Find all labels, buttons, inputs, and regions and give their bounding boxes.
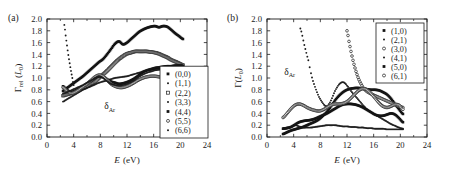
series-(4,1) bbox=[282, 124, 404, 130]
legend-label: (5,0) bbox=[391, 63, 407, 72]
legend-label: (6,1) bbox=[391, 72, 407, 81]
data-marker bbox=[334, 90, 336, 92]
y-tick-label: 1.8 bbox=[251, 26, 262, 36]
data-marker bbox=[402, 108, 405, 111]
series-(1,0) bbox=[282, 87, 405, 136]
y-tick-label: 1.0 bbox=[31, 73, 42, 83]
x-tick-label: 24 bbox=[203, 140, 212, 150]
data-marker bbox=[65, 35, 67, 37]
data-marker bbox=[63, 24, 65, 26]
legend-label: (0,0) bbox=[175, 70, 191, 79]
y-tick-label: 2.0 bbox=[31, 14, 42, 24]
y-tick-label: 0.8 bbox=[31, 85, 42, 95]
data-marker bbox=[69, 66, 71, 68]
data-marker bbox=[299, 27, 301, 29]
data-marker bbox=[300, 30, 302, 32]
legend-marker bbox=[383, 39, 385, 41]
legend-marker bbox=[383, 29, 386, 32]
data-marker bbox=[313, 83, 315, 85]
legend-marker bbox=[167, 129, 169, 131]
data-marker bbox=[306, 56, 308, 58]
legend-label: (3,3) bbox=[175, 98, 191, 107]
data-marker bbox=[312, 80, 314, 82]
x-tick-label: 0 bbox=[45, 140, 49, 150]
legend-label: (3,0) bbox=[391, 45, 407, 54]
legend-label: (2,2) bbox=[175, 89, 191, 98]
data-marker bbox=[67, 49, 69, 51]
data-marker bbox=[402, 113, 405, 116]
x-tick-label: 24 bbox=[423, 140, 432, 150]
x-tick-label: 16 bbox=[369, 140, 378, 150]
legend-marker bbox=[167, 119, 170, 122]
y-tick-label: 0.4 bbox=[251, 109, 262, 119]
y-tick-label: 0.8 bbox=[251, 85, 262, 95]
data-marker bbox=[354, 67, 357, 70]
data-marker bbox=[66, 45, 68, 47]
legend-label: (1,1) bbox=[175, 79, 191, 88]
data-marker bbox=[402, 128, 404, 130]
y-tick-label: 0.4 bbox=[31, 109, 42, 119]
legend-marker bbox=[383, 47, 386, 50]
legend-marker bbox=[167, 82, 169, 84]
y-axis-title: Γrel (L0) bbox=[13, 64, 24, 92]
data-marker bbox=[317, 94, 319, 96]
data-marker bbox=[72, 81, 74, 83]
data-marker bbox=[65, 40, 67, 42]
delta-ar-annotation: δAr bbox=[104, 101, 115, 112]
data-marker bbox=[69, 62, 71, 64]
y-tick-label: 0.2 bbox=[31, 120, 42, 130]
legend-label: (2,1) bbox=[391, 36, 407, 45]
data-marker bbox=[67, 54, 69, 56]
data-marker bbox=[330, 99, 332, 101]
x-tick-label: 12 bbox=[343, 140, 352, 150]
legend-label: (6,6) bbox=[175, 126, 191, 135]
data-marker bbox=[347, 34, 350, 37]
x-tick-label: 16 bbox=[149, 140, 158, 150]
panel-b-plot: 048121620240.00.20.40.60.81.01.21.41.61.… bbox=[225, 0, 450, 172]
data-marker bbox=[71, 74, 73, 76]
legend-label: (5,5) bbox=[175, 117, 191, 126]
data-marker bbox=[351, 55, 354, 58]
data-marker bbox=[402, 121, 405, 124]
legend-marker bbox=[167, 101, 169, 103]
data-marker bbox=[332, 95, 334, 97]
y-tick-label: 1.4 bbox=[31, 50, 42, 60]
data-marker bbox=[301, 35, 303, 37]
data-marker bbox=[309, 66, 311, 68]
legend: (0,0)(1,1)(2,2)(3,3)(4,4)(5,5)(6,6) bbox=[160, 66, 208, 138]
data-marker bbox=[336, 86, 338, 88]
data-marker bbox=[314, 86, 316, 88]
data-marker bbox=[311, 77, 313, 79]
y-tick-label: 0.6 bbox=[251, 97, 262, 107]
y-tick-label: 2.0 bbox=[251, 14, 262, 24]
y-tick-label: 0.2 bbox=[251, 120, 262, 130]
data-marker bbox=[335, 88, 337, 90]
y-tick-label: 1.2 bbox=[251, 61, 262, 71]
data-marker bbox=[319, 98, 321, 100]
data-marker bbox=[71, 77, 73, 79]
y-tick-label: 0.0 bbox=[31, 132, 42, 142]
y-tick-label: 0.0 bbox=[251, 132, 262, 142]
y-tick-label: 1.6 bbox=[31, 38, 42, 48]
data-marker bbox=[329, 101, 331, 103]
x-axis-title: E(eV) bbox=[113, 155, 139, 165]
legend-label: (4,4) bbox=[175, 108, 191, 117]
y-axis-title: Γ(L0) bbox=[233, 68, 244, 88]
x-tick-label: 20 bbox=[176, 140, 185, 150]
data-marker bbox=[333, 92, 335, 94]
x-tick-label: 20 bbox=[396, 140, 405, 150]
data-marker bbox=[64, 29, 66, 31]
data-marker bbox=[73, 84, 75, 86]
series-(1,1) bbox=[63, 24, 74, 86]
data-marker bbox=[331, 97, 333, 99]
legend-marker bbox=[383, 57, 385, 59]
legend-marker bbox=[383, 65, 386, 68]
data-marker bbox=[346, 29, 349, 32]
y-tick-label: 1.2 bbox=[31, 61, 42, 71]
data-marker bbox=[68, 58, 70, 60]
legend-marker bbox=[167, 91, 170, 94]
x-tick-label: 0 bbox=[265, 140, 269, 150]
x-tick-label: 4 bbox=[292, 140, 297, 150]
delta-ar-annotation: δAr bbox=[284, 67, 295, 78]
x-tick-label: 8 bbox=[318, 140, 322, 150]
